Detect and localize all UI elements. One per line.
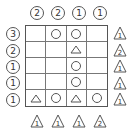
top-clue-3: 1 xyxy=(72,6,86,20)
cell-r3c4[interactable] xyxy=(87,58,107,74)
bottom-clue-1: 1 xyxy=(30,114,44,128)
right-clue-1: 1 xyxy=(113,26,127,40)
cell-r4c2[interactable] xyxy=(46,74,66,90)
cell-r3c2[interactable] xyxy=(46,58,66,74)
triangle-mark xyxy=(70,94,82,103)
left-clue-3: 1 xyxy=(6,60,20,74)
cell-r1c3[interactable] xyxy=(67,26,87,42)
svg-text:1: 1 xyxy=(118,98,122,106)
cell-r4c1[interactable] xyxy=(26,74,46,90)
cell-r2c4[interactable] xyxy=(87,42,107,58)
svg-text:2: 2 xyxy=(118,49,122,57)
circle-mark xyxy=(51,93,61,103)
circle-mark xyxy=(71,29,81,39)
bottom-clue-2: 1 xyxy=(51,114,65,128)
cell-r2c3[interactable] xyxy=(67,42,87,58)
cell-r5c4[interactable] xyxy=(87,90,107,106)
cell-r3c3[interactable] xyxy=(67,58,87,74)
top-clue-1: 2 xyxy=(30,6,44,20)
circle-mark xyxy=(92,93,102,103)
top-clue-4: 1 xyxy=(93,6,107,20)
left-clue-5: 1 xyxy=(6,93,20,107)
cell-r3c1[interactable] xyxy=(26,58,46,74)
circle-mark xyxy=(71,61,81,71)
svg-text:2: 2 xyxy=(98,120,102,128)
svg-text:1: 1 xyxy=(118,65,122,73)
right-clue-4: 1 xyxy=(113,76,127,90)
svg-text:1: 1 xyxy=(77,120,81,128)
svg-text:1: 1 xyxy=(118,82,122,90)
right-clue-3: 1 xyxy=(113,59,127,73)
bottom-clue-4: 2 xyxy=(93,114,107,128)
svg-text:1: 1 xyxy=(56,120,60,128)
cell-r4c4[interactable] xyxy=(87,74,107,90)
cell-r5c2[interactable] xyxy=(46,90,66,106)
cell-r4c3[interactable] xyxy=(67,74,87,90)
cell-r1c2[interactable] xyxy=(46,26,66,42)
top-clue-2: 2 xyxy=(51,6,65,20)
cell-r5c3[interactable] xyxy=(67,90,87,106)
right-clue-5: 1 xyxy=(113,92,127,106)
bottom-clue-3: 1 xyxy=(72,114,86,128)
triangle-mark xyxy=(30,94,42,103)
cell-r2c1[interactable] xyxy=(26,42,46,58)
left-clue-1: 3 xyxy=(6,27,20,41)
left-clue-4: 1 xyxy=(6,76,20,90)
cell-r1c4[interactable] xyxy=(87,26,107,42)
cell-r5c1[interactable] xyxy=(26,90,46,106)
svg-text:1: 1 xyxy=(118,32,122,40)
right-clue-2: 2 xyxy=(113,43,127,57)
left-clue-2: 2 xyxy=(6,44,20,58)
circle-mark xyxy=(51,29,61,39)
svg-text:1: 1 xyxy=(35,120,39,128)
circle-mark xyxy=(71,77,81,87)
triangle-mark xyxy=(70,45,82,54)
cell-r1c1[interactable] xyxy=(26,26,46,42)
puzzle-grid xyxy=(25,25,108,107)
cell-r2c2[interactable] xyxy=(46,42,66,58)
